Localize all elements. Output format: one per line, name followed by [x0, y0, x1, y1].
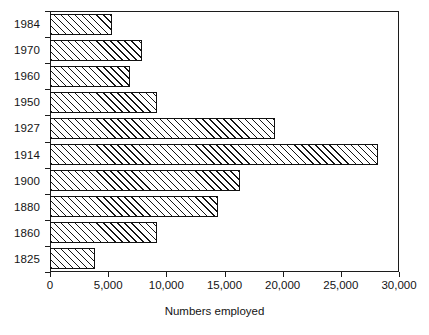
- x-axis-tick: [341, 272, 342, 277]
- bar: [50, 144, 378, 165]
- x-axis-tick-label: 5,000: [94, 279, 123, 291]
- x-axis-tick-label: 30,000: [381, 279, 416, 291]
- y-axis-tick-label: 1900: [0, 168, 44, 194]
- y-axis-tick-label: 1927: [0, 115, 44, 141]
- bar-slot: [50, 220, 399, 246]
- bar: [50, 40, 142, 61]
- x-axis-tick: [108, 272, 109, 277]
- x-axis-tick-label: 20,000: [265, 279, 300, 291]
- bar: [50, 248, 95, 269]
- x-axis-tick-label: 10,000: [149, 279, 184, 291]
- x-axis-tick: [166, 272, 167, 277]
- y-axis-tick-label: 1950: [0, 89, 44, 115]
- bar: [50, 170, 240, 191]
- y-axis-tick-label: 1960: [0, 63, 44, 89]
- bar-slot: [50, 168, 399, 194]
- bar: [50, 14, 112, 35]
- x-axis-tick: [50, 272, 51, 277]
- bar: [50, 66, 130, 87]
- x-axis-ticks: [50, 272, 399, 277]
- bar: [50, 118, 275, 139]
- x-axis-tick: [225, 272, 226, 277]
- y-axis-tick-label: 1880: [0, 194, 44, 220]
- bar-slot: [50, 115, 399, 141]
- x-axis-tick-label: 15,000: [207, 279, 242, 291]
- y-axis-tick-label: 1914: [0, 141, 44, 167]
- y-axis-tick-label: 1825: [0, 246, 44, 272]
- bar-slot: [50, 141, 399, 167]
- bar: [50, 196, 218, 217]
- bar-slot: [50, 11, 399, 37]
- y-axis-tick-label: 1984: [0, 11, 44, 37]
- bar-slot: [50, 89, 399, 115]
- x-axis-title: Numbers employed: [0, 305, 429, 317]
- x-axis-tick: [399, 272, 400, 277]
- x-axis-tick-label: 25,000: [323, 279, 358, 291]
- bar: [50, 92, 157, 113]
- bars-layer: [50, 11, 399, 272]
- x-axis-tick: [283, 272, 284, 277]
- bar-slot: [50, 246, 399, 272]
- y-axis-tick-label: 1970: [0, 37, 44, 63]
- y-axis-tick-label: 1860: [0, 220, 44, 246]
- bar-slot: [50, 194, 399, 220]
- y-axis-labels: 1984197019601950192719141900188018601825: [0, 11, 44, 272]
- bar: [50, 222, 157, 243]
- x-axis-labels: 05,00010,00015,00020,00025,00030,000: [0, 279, 429, 295]
- bar-slot: [50, 63, 399, 89]
- bar-slot: [50, 37, 399, 63]
- x-axis-tick-label: 0: [47, 279, 53, 291]
- bar-chart: 1984197019601950192719141900188018601825…: [0, 0, 429, 335]
